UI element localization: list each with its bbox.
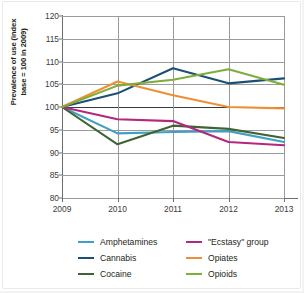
y-axis-title: Prevalence of use (index base = 100 in 2… <box>9 0 29 127</box>
legend-swatch-ecstasy-group <box>186 241 202 244</box>
x-tick-mark-2013 <box>284 198 285 202</box>
legend-column-left: AmphetaminesCannabisCocaine <box>78 234 157 282</box>
series-lines <box>62 16 284 198</box>
legend-swatch-cocaine <box>78 273 94 276</box>
legend-label-cannabis: Cannabis <box>100 253 136 263</box>
chart-legend: AmphetaminesCannabisCocaine "Ecstasy" gr… <box>0 234 304 292</box>
y-tick-label-110: 110 <box>46 57 59 67</box>
legend-item-cannabis[interactable]: Cannabis <box>78 250 157 266</box>
legend-swatch-opioids <box>186 273 202 276</box>
x-tick-label-2009: 2009 <box>53 204 72 214</box>
y-tick-label-90: 90 <box>50 148 59 158</box>
plot-area-wrapper: 80859095100105110115120 2009201020112012… <box>44 16 288 211</box>
legend-column-right: "Ecstasy" groupOpiatesOpioids <box>186 234 269 282</box>
series-line-cocaine <box>62 107 284 144</box>
y-tick-label-95: 95 <box>50 125 59 135</box>
legend-item-opioids[interactable]: Opioids <box>186 266 269 282</box>
line-chart: Prevalence of use (index base = 100 in 2… <box>0 0 304 232</box>
legend-label-amphetamines: Amphetamines <box>100 237 157 247</box>
legend-item-cocaine[interactable]: Cocaine <box>78 266 157 282</box>
y-tick-label-85: 85 <box>50 170 59 180</box>
y-tick-label-120: 120 <box>45 11 59 21</box>
legend-label-ecstasy-group: "Ecstasy" group <box>208 237 269 247</box>
legend-swatch-cannabis <box>78 257 94 260</box>
legend-swatch-amphetamines <box>78 241 94 244</box>
x-tick-label-2012: 2012 <box>219 204 238 214</box>
y-tick-label-115: 115 <box>46 34 59 44</box>
legend-label-cocaine: Cocaine <box>100 269 132 279</box>
series-line-cannabis <box>62 68 284 107</box>
legend-swatch-opiates <box>186 257 202 260</box>
x-tick-label-2010: 2010 <box>108 204 127 214</box>
y-axis-title-line2: base = 100 in 2009) <box>19 0 29 127</box>
series-line-amphetamines <box>62 107 284 142</box>
y-tick-label-100: 100 <box>45 102 59 112</box>
x-tick-mark-2011 <box>173 198 174 202</box>
series-line-opioids <box>62 69 284 107</box>
y-tick-label-80: 80 <box>50 193 59 203</box>
plot-area: 80859095100105110115120 2009201020112012… <box>62 16 284 198</box>
legend-item-amphetamines[interactable]: Amphetamines <box>78 234 157 250</box>
legend-item-ecstasy-group[interactable]: "Ecstasy" group <box>186 234 269 250</box>
x-tick-mark-2012 <box>229 198 230 202</box>
x-tick-mark-2010 <box>118 198 119 202</box>
chart-page: Prevalence of use (index base = 100 in 2… <box>0 0 304 293</box>
x-tick-label-2011: 2011 <box>164 204 182 214</box>
legend-label-opiates: Opiates <box>208 253 238 263</box>
gridline-x-2013 <box>284 16 285 198</box>
legend-label-opioids: Opioids <box>208 269 237 279</box>
x-tick-label-2013: 2013 <box>275 204 294 214</box>
x-tick-mark-2009 <box>62 198 63 202</box>
y-axis-title-line1: Prevalence of use (index <box>9 19 18 106</box>
legend-item-opiates[interactable]: Opiates <box>186 250 269 266</box>
y-tick-label-105: 105 <box>45 79 59 89</box>
